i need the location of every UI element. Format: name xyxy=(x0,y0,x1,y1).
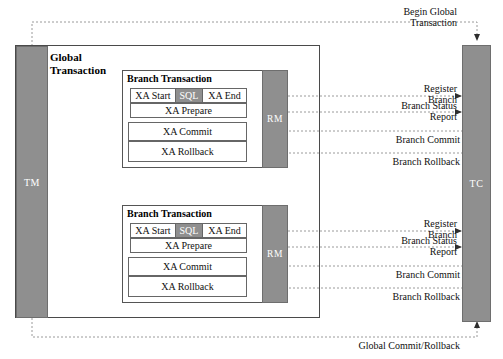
begin-global-transaction-line1: Begin Global xyxy=(350,6,457,17)
branch2-xa-ops-row: XA Start SQL XA End xyxy=(130,223,247,238)
actor-label-rm-1: RM xyxy=(267,114,283,124)
branch2-branch-status-line2: Report xyxy=(320,246,457,257)
branch1-xa-rollback-row[interactable]: XA Rollback xyxy=(128,141,247,162)
diagram-canvas: Global Transaction TM TC Branch Transact… xyxy=(0,0,503,359)
branch2-xa-prepare-row[interactable]: XA Prepare xyxy=(130,238,247,253)
actor-bar-rm-1[interactable]: RM xyxy=(262,70,288,168)
branch2-register-branch-line1: Register xyxy=(330,218,457,229)
branch1-xa-end-cell[interactable]: XA End xyxy=(203,89,246,102)
global-commit-rollback-label: Global Commit/Rollback xyxy=(320,340,460,351)
branch2-branch-commit-label: Branch Commit xyxy=(330,269,460,280)
global-commit-rollback-arrow xyxy=(32,318,477,337)
actor-label-tc: TC xyxy=(470,178,484,189)
branch2-branch-rollback-label: Branch Rollback xyxy=(330,291,460,302)
branch2-xa-end-cell[interactable]: XA End xyxy=(203,224,246,237)
branch2-branch-status-report-label: Branch Status Report xyxy=(320,235,457,257)
branch-transaction-title-1: Branch Transaction xyxy=(124,73,264,84)
branch1-branch-status-line2: Report xyxy=(320,111,457,122)
branch1-xa-commit-row[interactable]: XA Commit xyxy=(128,122,247,141)
actor-bar-tm[interactable]: TM xyxy=(16,46,48,318)
global-transaction-title-line1: Global xyxy=(50,51,140,64)
actor-bar-rm-2[interactable]: RM xyxy=(262,205,288,303)
branch1-branch-rollback-label: Branch Rollback xyxy=(330,156,460,167)
begin-global-transaction-line2: Transaction xyxy=(350,17,457,28)
branch1-xa-prepare-row[interactable]: XA Prepare xyxy=(130,103,247,118)
begin-global-transaction-label: Begin Global Transaction xyxy=(350,6,457,28)
branch2-xa-rollback-row[interactable]: XA Rollback xyxy=(128,276,247,297)
actor-bar-tc[interactable]: TC xyxy=(462,45,491,322)
branch1-branch-status-report-label: Branch Status Report xyxy=(320,100,457,122)
actor-label-tm: TM xyxy=(24,177,40,188)
branch1-xa-ops-row: XA Start SQL XA End xyxy=(130,88,247,103)
branch1-sql-cell[interactable]: SQL xyxy=(175,89,203,102)
branch1-register-branch-line1: Register xyxy=(330,83,457,94)
branch2-branch-status-line1: Branch Status xyxy=(320,235,457,246)
branch2-xa-commit-row[interactable]: XA Commit xyxy=(128,257,247,276)
branch2-xa-start-cell[interactable]: XA Start xyxy=(131,224,175,237)
branch-transaction-title-2: Branch Transaction xyxy=(124,208,264,219)
branch2-sql-cell[interactable]: SQL xyxy=(175,224,203,237)
branch1-branch-commit-label: Branch Commit xyxy=(330,134,460,145)
branch1-branch-status-line1: Branch Status xyxy=(320,100,457,111)
branch1-xa-start-cell[interactable]: XA Start xyxy=(131,89,175,102)
actor-label-rm-2: RM xyxy=(267,249,283,259)
